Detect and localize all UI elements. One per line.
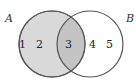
element-3: 3 [65, 38, 72, 51]
venn-diagram: A B 1 2 3 4 5 [0, 0, 136, 81]
set-a-label: A [4, 12, 13, 25]
set-b-label: B [125, 12, 134, 25]
element-5: 5 [106, 38, 113, 51]
element-4: 4 [89, 38, 96, 51]
element-2: 2 [36, 38, 43, 51]
element-1: 1 [19, 38, 26, 51]
